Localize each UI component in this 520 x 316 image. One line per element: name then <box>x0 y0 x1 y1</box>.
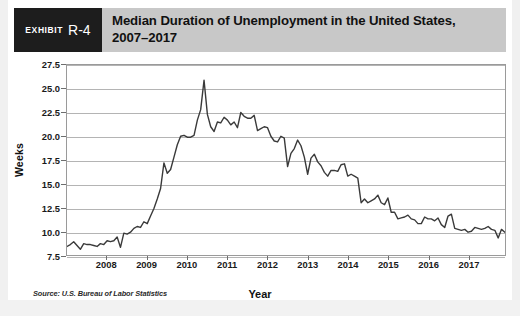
exhibit-label: Exhibit <box>25 25 63 35</box>
gridline-7-5 <box>67 257 505 258</box>
x-axis-tick-label: 2010 <box>164 259 210 270</box>
plot-area <box>66 64 506 256</box>
x-axis-tick-mark <box>469 256 470 260</box>
y-axis-tick-label: 10.0 <box>14 227 60 238</box>
x-axis-tick-label: 2009 <box>124 259 170 270</box>
unemployment-duration-line <box>67 65 505 255</box>
y-axis-tick-label: 27.5 <box>14 59 60 70</box>
x-axis-tick-mark <box>147 256 148 260</box>
x-axis-tick-label: 2016 <box>406 259 452 270</box>
y-axis-tick-label: 12.5 <box>14 203 60 214</box>
x-axis-tick-label: 2012 <box>244 259 290 270</box>
exhibit-number: R-4 <box>68 22 91 38</box>
page-title: Median Duration of Unemployment in the U… <box>112 13 494 47</box>
y-axis-tick-mark <box>61 256 66 257</box>
x-axis-tick-label: 2013 <box>285 259 331 270</box>
x-axis-tick-label: 2011 <box>204 259 250 270</box>
x-axis-tick-mark <box>227 256 228 260</box>
exhibit-badge: Exhibit R-4 <box>14 8 102 52</box>
x-axis-tick-mark <box>267 256 268 260</box>
data-series-polyline <box>67 80 505 249</box>
x-axis-tick-label: 2015 <box>365 259 411 270</box>
x-axis-tick-mark <box>388 256 389 260</box>
x-axis-tick-mark <box>308 256 309 260</box>
y-axis-tick-label: 20.0 <box>14 131 60 142</box>
y-axis-tick-label: 7.5 <box>14 251 60 262</box>
x-axis-tick-label: 2014 <box>325 259 371 270</box>
y-axis-tick-label: 15.0 <box>14 179 60 190</box>
page-left-margin-shade <box>0 0 8 316</box>
page-bottom-shade <box>0 300 520 316</box>
page-right-margin-shade <box>512 0 520 316</box>
source-note: Source: U.S. Bureau of Labor Statistics <box>33 289 167 298</box>
x-axis-tick-label: 2008 <box>83 259 129 270</box>
x-axis-tick-mark <box>187 256 188 260</box>
y-axis-tick-label: 22.5 <box>14 107 60 118</box>
x-axis-tick-label: 2017 <box>446 259 492 270</box>
x-axis-tick-mark <box>106 256 107 260</box>
y-axis-tick-label: 25.0 <box>14 83 60 94</box>
x-axis-tick-mark <box>429 256 430 260</box>
x-axis-tick-mark <box>348 256 349 260</box>
y-axis-tick-label: 17.5 <box>14 155 60 166</box>
exhibit-figure: Exhibit R-4 Median Duration of Unemploym… <box>0 0 520 316</box>
